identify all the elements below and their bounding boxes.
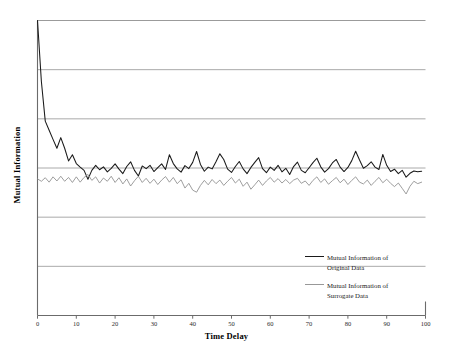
x-tick-label: 70: [296, 320, 322, 327]
x-tick-label: 30: [141, 320, 167, 327]
x-tick-label: 100: [413, 320, 439, 327]
x-tick-label: 80: [335, 320, 361, 327]
x-tick-label: 40: [180, 320, 206, 327]
x-axis-title: Time Delay: [0, 331, 453, 341]
x-tick-label: 90: [374, 320, 400, 327]
x-tick-label: 60: [257, 320, 283, 327]
x-tick-label: 0: [25, 320, 51, 327]
gridlines: [37, 21, 426, 267]
x-tick-label: 50: [219, 320, 245, 327]
legend-label-original: Mutual Information of Original Data: [327, 253, 388, 272]
chart-figure: Time Delay Mutual Information 0102030405…: [0, 0, 453, 354]
legend-label-surrogate: Mutual Information of Surrogate Data: [327, 281, 388, 300]
x-tick-label: 20: [102, 320, 128, 327]
chart-plot-area: [0, 0, 453, 354]
x-tick-label: 10: [63, 320, 89, 327]
legend-swatches: [305, 257, 324, 285]
y-axis-title: Mutual Information: [12, 105, 22, 225]
